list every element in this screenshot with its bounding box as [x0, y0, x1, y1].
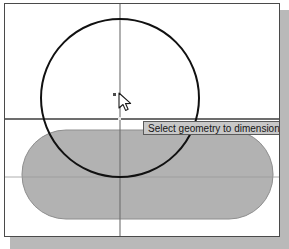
graphics-area[interactable]: Select geometry to dimension — [5, 4, 279, 236]
slot-profile-shape[interactable] — [22, 130, 273, 219]
dimension-tooltip: Select geometry to dimension — [143, 121, 279, 135]
sketch-canvas-frame[interactable]: Select geometry to dimension — [4, 3, 280, 237]
origin-point-marker — [118, 117, 121, 120]
screenshot-root: Select geometry to dimension — [0, 0, 289, 249]
selection-point-marker — [113, 93, 116, 96]
sketch-geometry-layer — [5, 4, 279, 236]
